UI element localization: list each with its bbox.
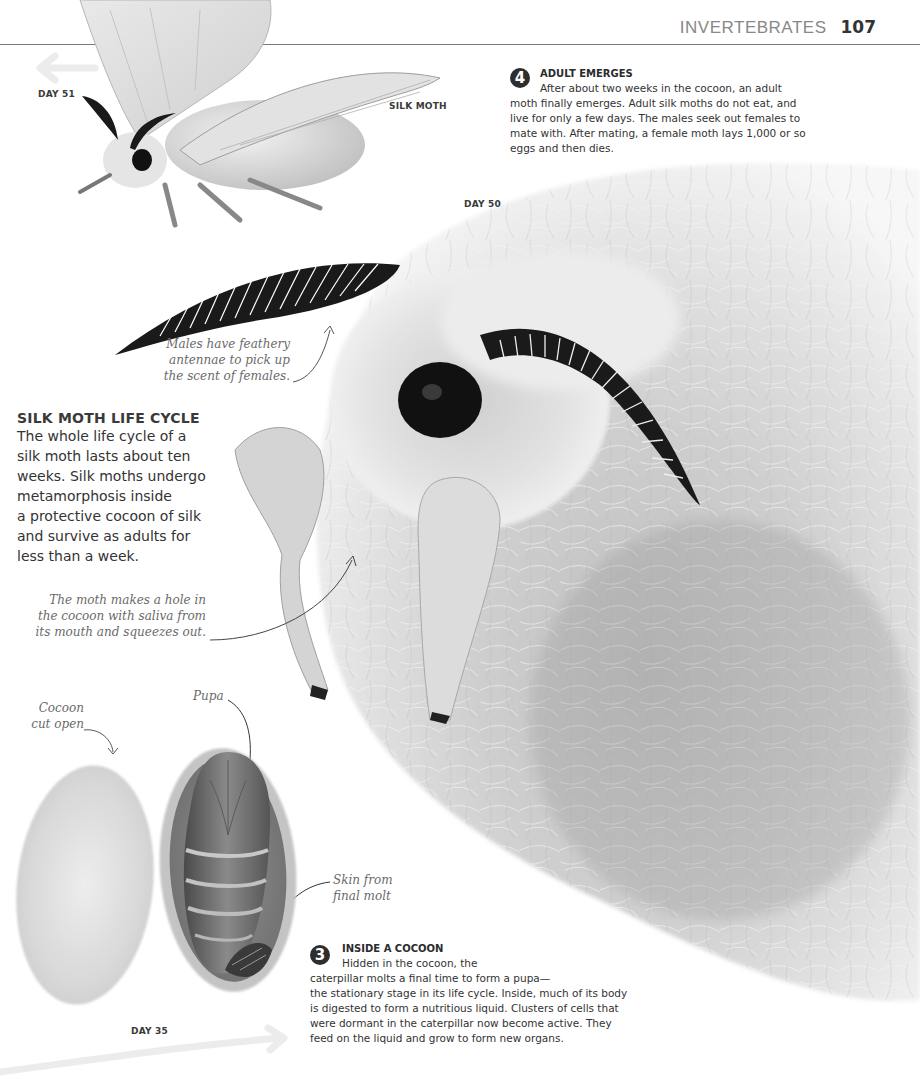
step-text-line: Hidden in the cocoon, the (310, 956, 670, 971)
adult-moth-image (0, 0, 460, 240)
step-text: After about two weeks in the cocoon, an … (510, 68, 810, 156)
annotation-line: the cocoon with saliva from (30, 608, 206, 624)
annotation-hole: The moth makes a hole in the cocoon with… (30, 592, 206, 640)
body-line: metamorphosis inside (17, 486, 257, 506)
annotation-line: Cocoon (20, 700, 84, 716)
step-text-line: were dormant in the caterpillar now beco… (310, 1016, 670, 1031)
annotation-line: The moth makes a hole in (30, 592, 206, 608)
step-4-adult-emerges: 4 ADULT EMERGES After about two weeks in… (510, 68, 810, 156)
label-day-51: DAY 51 (38, 89, 75, 99)
step-title: INSIDE A COCOON (342, 943, 443, 954)
step-text-line: feed on the liquid and grow to form new … (310, 1031, 670, 1046)
label-day-50: DAY 50 (464, 199, 501, 209)
annotation-antennae: Males have feathery antennae to pick up … (140, 336, 290, 384)
step-text: Hidden in the cocoon, the caterpillar mo… (310, 943, 670, 1046)
step-title: ADULT EMERGES (540, 68, 633, 79)
step-number-badge: 4 (510, 68, 530, 88)
section-title: SILK MOTH LIFE CYCLE (17, 410, 257, 426)
body-line: and survive as adults for (17, 526, 257, 546)
step-text-line: the stationary stage in its life cycle. … (310, 986, 670, 1001)
annotation-skin: Skin from final molt (333, 872, 393, 904)
annotation-line: Males have feathery (140, 336, 290, 352)
arrow-left-icon (40, 56, 95, 80)
body-line: silk moth lasts about ten (17, 446, 257, 466)
step-text-line: caterpillar molts a final time to form a… (310, 971, 670, 986)
annotation-line: Skin from (333, 872, 393, 888)
timeline-arrow (0, 1010, 300, 1080)
body-line: The whole life cycle of a (17, 426, 257, 446)
intro-section: SILK MOTH LIFE CYCLE The whole life cycl… (17, 410, 257, 566)
step-number-badge: 3 (310, 945, 330, 965)
step-text-line: is digested to form a nutritious liquid.… (310, 1001, 670, 1016)
annotation-line: cut open (20, 716, 84, 732)
body-line: a protective cocoon of silk (17, 506, 257, 526)
section-body: The whole life cycle of a silk moth last… (17, 426, 257, 566)
annotation-pupa: Pupa (193, 688, 224, 704)
annotation-cocoon-cut: Cocoon cut open (20, 700, 84, 732)
body-line: weeks. Silk moths undergo (17, 466, 257, 486)
annotation-line: final molt (333, 888, 393, 904)
annotation-line: antennae to pick up (140, 352, 290, 368)
label-silk-moth: SILK MOTH (389, 101, 447, 111)
annotation-line: its mouth and squeezes out. (30, 624, 206, 640)
annotation-line: the scent of females. (140, 368, 290, 384)
body-line: less than a week. (17, 546, 257, 566)
step-3-inside-a-cocoon: 3 INSIDE A COCOON Hidden in the cocoon, … (310, 943, 670, 1046)
label-day-35: DAY 35 (131, 1026, 168, 1036)
open-cocoon-image (0, 740, 320, 1010)
